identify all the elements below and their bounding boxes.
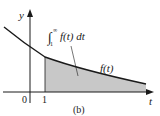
figure-caption: (b) bbox=[73, 104, 85, 116]
y-axis-arrow-icon bbox=[27, 9, 33, 17]
integral-upper-limit: ∞ bbox=[53, 27, 57, 33]
curve-label: f(t) bbox=[100, 62, 114, 75]
origin-label: 0 bbox=[22, 94, 27, 105]
y-axis-label: y bbox=[18, 9, 24, 21]
improper-integral-diagram: y t 0 1 f(t) ∫ ∞ 1 f(t) dt (b) bbox=[0, 0, 160, 116]
integrand-label: f(t) dt bbox=[60, 30, 86, 43]
tick-label-one: 1 bbox=[42, 94, 47, 105]
integral-lower-limit: 1 bbox=[50, 41, 53, 47]
x-axis-label: t bbox=[149, 95, 153, 107]
